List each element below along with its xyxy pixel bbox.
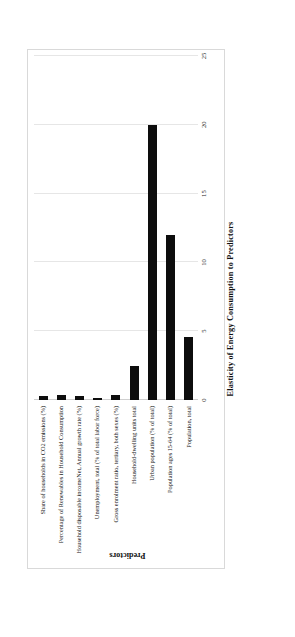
bar-row [179,56,197,400]
plot-area [34,56,198,400]
bar [147,124,156,399]
x-tick-label: 20 [200,121,207,128]
category-label: Population ages 15-64 (% of total) [161,402,179,568]
bar-row [34,56,52,400]
bar [129,365,138,399]
x-tick-label: 0 [200,398,207,401]
bar-row [88,56,106,400]
bar [184,336,193,399]
x-tick-label: 5 [200,329,207,332]
chart-plot-frame: Predictors Share of households in CO2 em… [27,49,225,569]
x-tick-label: 25 [200,52,207,59]
rotated-figure-container: Predictors Share of households in CO2 em… [23,39,273,599]
category-label: Share of households in CO2 emissions (%) [34,402,52,568]
bar-row [70,56,88,400]
bar-row [161,56,179,400]
bar [38,395,47,399]
x-tick-label: 10 [200,259,207,266]
bar-row [52,56,70,400]
category-label: Household disposable incomeNet, Annual g… [70,402,88,568]
category-label: Gross enrolment ratio, tertiary, both se… [106,402,124,568]
bar-series [34,56,198,400]
x-axis-title: Elasticity of Energy Consumption to Pred… [225,49,235,569]
bar [93,398,102,400]
figure-page: Predictors Share of households in CO2 em… [0,0,295,637]
bar-row [125,56,143,400]
category-label: Household-dwelling units total [125,402,143,568]
x-tick-label: 15 [200,190,207,197]
bar [75,395,84,399]
bar [56,395,65,400]
bar-row [106,56,124,400]
category-label: Unemployment, total (% of total labor fo… [88,402,106,568]
category-label-list: Share of households in CO2 emissions (%)… [34,402,198,568]
bar [166,234,175,399]
bar-chart-figure: Predictors Share of households in CO2 em… [23,39,273,599]
bar [111,395,120,400]
x-axis-ticks: 0510152025 [200,56,216,400]
category-label: Percentage of Renewables in Household Co… [52,402,70,568]
bar-row [143,56,161,400]
category-label: Urban population (% of total) [143,402,161,568]
category-label: Population, total [179,402,197,568]
